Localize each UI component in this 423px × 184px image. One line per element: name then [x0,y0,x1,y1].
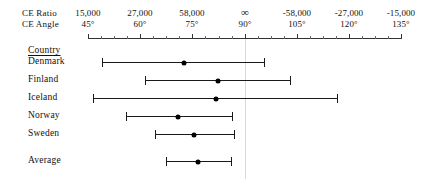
axis-minor-tick [114,36,115,39]
ce-angle-tick-label: 75° [186,19,199,30]
confidence-interval-cap [290,76,291,85]
forest-plot-chart: CE Ratio CE Angle Country 15,00045°27,00… [0,0,423,184]
axis-major-tick [140,34,141,39]
ce-ratio-tick-label: 15,000 [75,8,100,19]
ce-angle-tick-label: 45° [82,19,95,30]
ce-angle-tick-label: 60° [134,19,147,30]
point-estimate-marker [181,60,186,65]
axis-major-tick [401,34,402,39]
ce-angle-tick-label: 135° [392,19,410,30]
axis-major-tick [297,34,298,39]
ce-angle-header-label: CE Angle [22,19,59,30]
point-estimate-marker [213,96,218,101]
axis-minor-tick [375,36,376,39]
confidence-interval-cap [93,94,94,103]
axis-minor-tick [388,36,389,39]
confidence-interval-cap [231,157,232,166]
axis-minor-tick [153,36,154,39]
row-label-finland: Finland [28,74,58,85]
ce-angle-tick-label: 105° [288,19,306,30]
axis-minor-tick [362,36,363,39]
confidence-interval-cap [102,58,103,67]
ce-angle-tick-label: 120° [340,19,358,30]
ce-ratio-tick-label: 27,000 [127,8,152,19]
axis-minor-tick [323,36,324,39]
axis-minor-tick [336,36,337,39]
point-estimate-marker [216,78,221,83]
country-column-heading: Country [28,45,61,56]
point-estimate-marker [191,132,196,137]
axis-minor-tick [179,36,180,39]
axis-minor-tick [284,36,285,39]
axis-major-tick [192,34,193,39]
row-label-average: Average [28,155,61,166]
ce-ratio-tick-label: ∞ [241,7,249,18]
confidence-interval-cap [126,112,127,121]
confidence-interval-cap [232,112,233,121]
confidence-interval-cap [166,157,167,166]
axis-minor-tick [127,36,128,39]
axis-minor-tick [205,36,206,39]
ce-angle-tick-label: 90° [239,19,252,30]
reference-line-at-90-degrees [245,39,246,179]
axis-minor-tick [101,36,102,39]
axis-minor-tick [271,36,272,39]
point-estimate-marker [195,159,200,164]
ce-ratio-header-label: CE Ratio [22,8,57,19]
confidence-interval-cap [145,76,146,85]
axis-minor-tick [310,36,311,39]
row-label-iceland: Iceland [28,92,57,103]
confidence-interval-cap [264,58,265,67]
row-label-sweden: Sweden [28,128,59,139]
axis-major-tick [349,34,350,39]
ce-ratio-tick-label: -15,000 [387,8,415,19]
confidence-interval-cap [234,130,235,139]
row-label-denmark: Denmark [28,56,65,67]
axis-major-tick [88,34,89,39]
point-estimate-marker [176,114,181,119]
ce-ratio-tick-label: 58,000 [179,8,204,19]
ce-ratio-tick-label: -27,000 [335,8,363,19]
row-label-norway: Norway [28,110,60,121]
axis-minor-tick [166,36,167,39]
ce-ratio-tick-label: -58,000 [283,8,311,19]
axis-minor-tick [219,36,220,39]
confidence-interval-cap [337,94,338,103]
axis-minor-tick [232,36,233,39]
axis-minor-tick [258,36,259,39]
confidence-interval-cap [155,130,156,139]
